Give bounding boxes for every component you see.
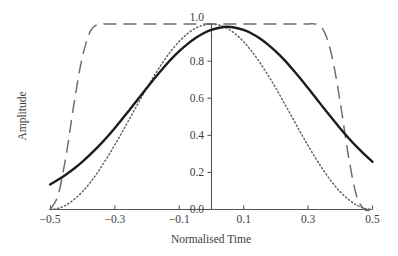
window-functions-line-chart: −0.5 −0.3 −0.1 0.1 0.3 0.5 0.0 0.2 0.4 0… bbox=[0, 0, 398, 256]
x-tick-label: 0.3 bbox=[301, 213, 316, 225]
x-tick-label: −0.1 bbox=[169, 213, 190, 225]
y-tick-label: 1.0 bbox=[190, 11, 205, 23]
y-tick-marks bbox=[208, 24, 212, 210]
x-tick-label: 0.5 bbox=[365, 213, 380, 225]
y-axis-title: Amplitude bbox=[16, 91, 29, 140]
y-tick-label: 0.4 bbox=[190, 129, 205, 141]
chart-figure: −0.5 −0.3 −0.1 0.1 0.3 0.5 0.0 0.2 0.4 0… bbox=[0, 0, 398, 256]
x-axis-title: Normalised Time bbox=[171, 233, 251, 245]
y-tick-label: 0.2 bbox=[190, 166, 205, 178]
y-tick-label: 0.0 bbox=[190, 203, 205, 215]
x-tick-label: −0.5 bbox=[40, 213, 61, 225]
y-tick-label: 0.6 bbox=[190, 92, 205, 104]
x-tick-label: 0.1 bbox=[237, 213, 252, 225]
y-tick-label: 0.8 bbox=[190, 55, 205, 67]
x-tick-label: −0.3 bbox=[104, 213, 125, 225]
